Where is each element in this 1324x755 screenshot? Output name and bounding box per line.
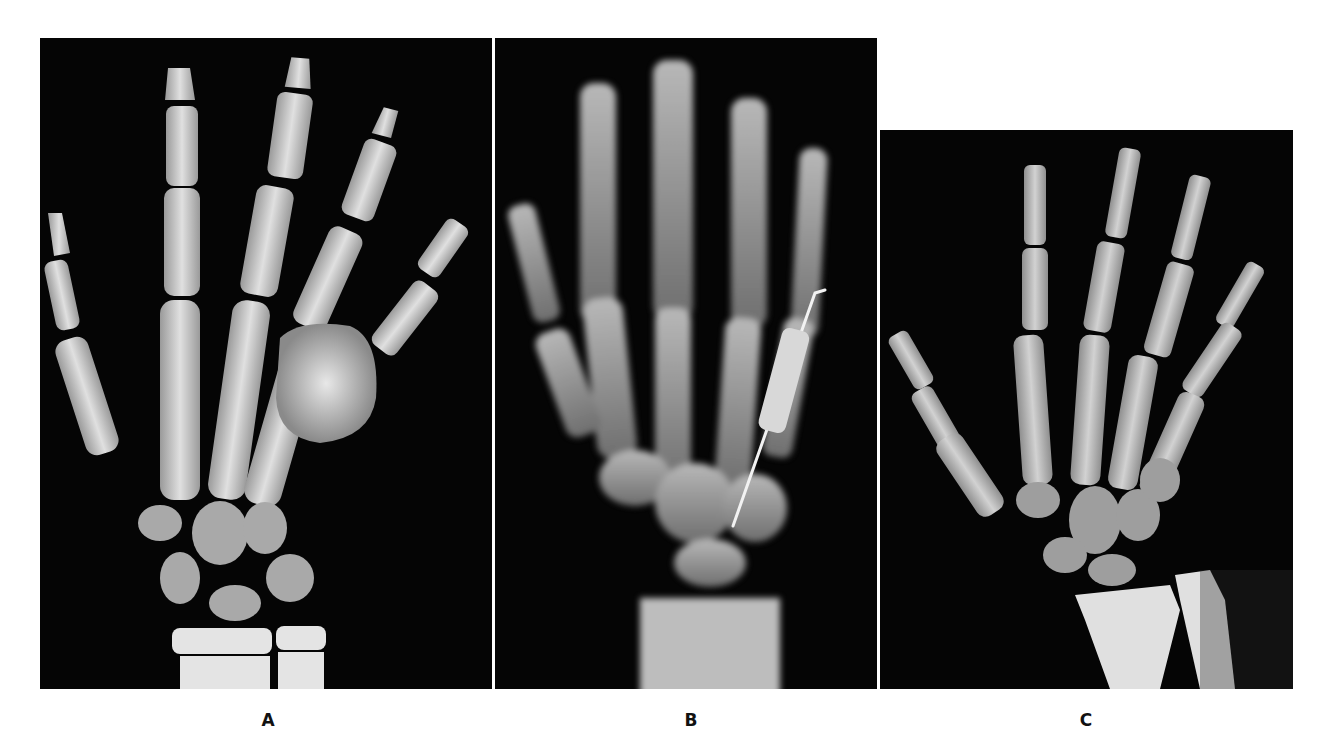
panel-label-b: B <box>671 710 711 730</box>
xray-panel-c <box>880 130 1293 689</box>
hand-xray-b-image <box>495 38 877 689</box>
panel-label-a: A <box>248 710 288 730</box>
xray-panel-a <box>40 38 492 689</box>
hand-xray-c-image <box>880 130 1293 689</box>
hand-xray-a-image <box>40 38 492 689</box>
xray-panel-b <box>495 38 877 689</box>
panel-label-c: C <box>1066 710 1106 730</box>
